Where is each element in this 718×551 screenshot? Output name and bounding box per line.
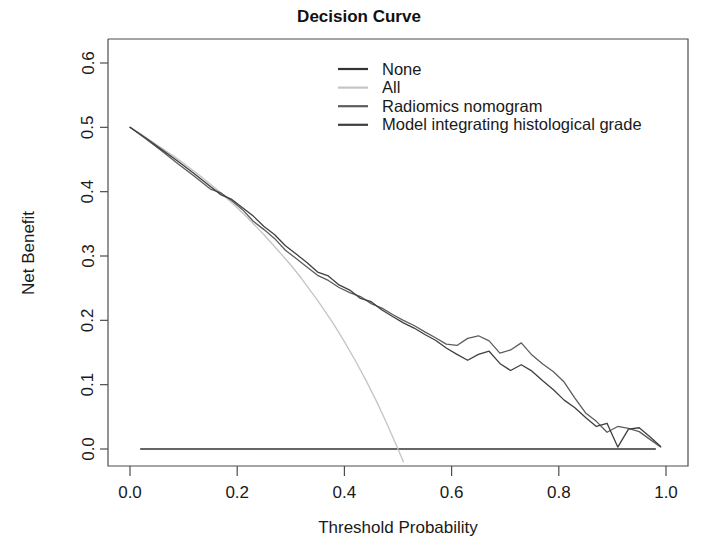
x-tick-label: 0.6 [440, 483, 464, 502]
y-tick-label: 0.1 [79, 373, 98, 397]
y-tick-label: 0.5 [79, 116, 98, 140]
decision-curve-figure: Decision Curve 0.00.10.20.30.40.50.6 0.0… [0, 0, 718, 551]
chart-title: Decision Curve [297, 7, 421, 26]
y-axis-title: Net Benefit [19, 211, 38, 295]
y-tick-label: 0.0 [79, 437, 98, 461]
y-tick-label: 0.6 [79, 51, 98, 75]
legend-label: All [382, 78, 400, 96]
y-tick-label: 0.4 [79, 180, 98, 204]
x-axis-title: Threshold Probability [318, 518, 478, 537]
x-tick-label: 0.4 [333, 483, 357, 502]
decision-curve-chart: Decision Curve 0.00.10.20.30.40.50.6 0.0… [0, 0, 718, 551]
legend-label: None [382, 60, 421, 78]
x-tick-label: 0.8 [547, 483, 571, 502]
legend-label: Model integrating histological grade [382, 115, 642, 133]
x-tick-label: 1.0 [654, 483, 678, 502]
y-tick-label: 0.3 [79, 244, 98, 268]
y-tick-label: 0.2 [79, 309, 98, 333]
x-tick-label: 0.0 [118, 483, 142, 502]
x-tick-label: 0.2 [225, 483, 249, 502]
legend-label: Radiomics nomogram [382, 97, 542, 115]
